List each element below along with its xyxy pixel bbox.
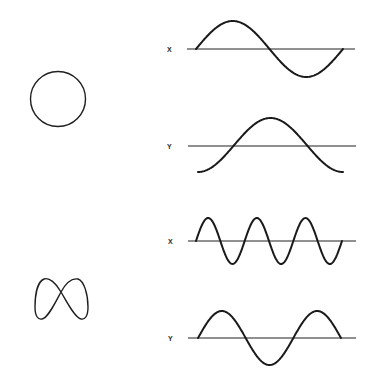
label-y-top: Y [167, 143, 172, 150]
figure-eight-lissajous [35, 279, 88, 320]
circle-lissajous [31, 72, 86, 127]
label-x-top: X [167, 46, 172, 53]
label-y-bottom: Y [168, 335, 173, 342]
wave-y-top [198, 118, 343, 172]
lissajous-figure: X Y X Y [0, 0, 387, 388]
label-x-bottom: X [168, 238, 173, 245]
